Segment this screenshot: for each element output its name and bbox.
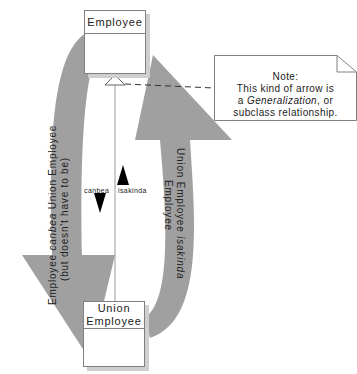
left-arrow-label: Employee canbea Union Employee (but does… xyxy=(47,125,71,305)
isakinda-label: isakinda xyxy=(118,187,147,194)
down-arrow-icon xyxy=(94,193,106,213)
employee-class-name: Employee xyxy=(85,11,145,34)
generalization-arrowhead-icon xyxy=(105,75,125,85)
employee-class[interactable]: Employee xyxy=(84,10,146,74)
union-employee-class-name: Union Employee xyxy=(84,302,144,329)
note-text: Note: This kind of arrow is a Generaliza… xyxy=(214,71,357,119)
up-arrow-icon xyxy=(117,165,129,185)
canbea-label: canbea xyxy=(84,187,109,194)
right-arrow-label: Union Employee isakinda Employee xyxy=(162,148,186,279)
union-employee-class[interactable]: Union Employee xyxy=(83,301,145,367)
